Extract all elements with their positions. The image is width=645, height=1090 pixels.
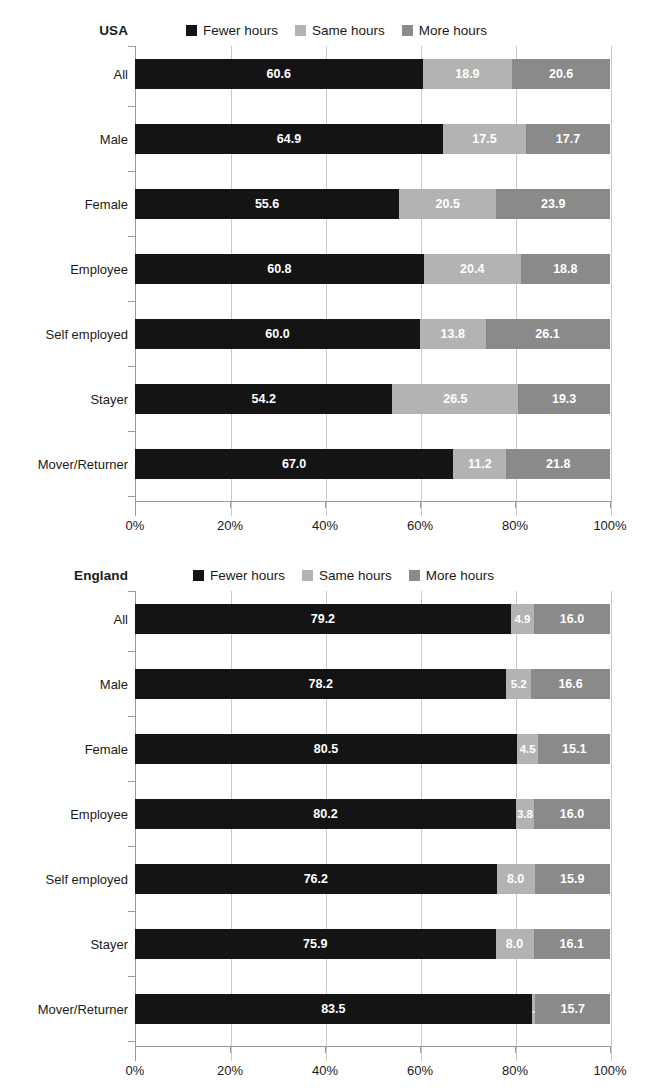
category-label-all: All <box>0 612 128 627</box>
bar-segment-more-hours: 20.6 <box>512 59 610 89</box>
bar-segment-fewer-hours: 60.8 <box>135 254 424 284</box>
stacked-bar: 80.23.816.0 <box>135 799 610 829</box>
y-axis-tick <box>128 591 136 592</box>
x-axis-label: 20% <box>217 1063 243 1078</box>
stacked-bar: 60.820.418.8 <box>135 254 610 284</box>
bar-segment-same-hours: 4.9 <box>511 604 534 634</box>
category-label-female: Female <box>0 197 128 212</box>
bar-segment-more-hours: 15.1 <box>538 734 610 764</box>
category-label-male: Male <box>0 677 128 692</box>
x-axis-tick <box>230 1046 231 1053</box>
chart-england-legend: Fewer hours Same hours More hours <box>193 568 494 583</box>
legend-swatch-icon-more-hours <box>402 25 413 36</box>
stacked-bar: 79.24.916.0 <box>135 604 610 634</box>
y-axis-tick <box>128 496 136 497</box>
stacked-bar: 54.226.519.3 <box>135 384 610 414</box>
x-axis-tick <box>230 501 231 508</box>
category-label-all: All <box>0 67 128 82</box>
y-axis-tick <box>128 301 136 302</box>
category-label-employee: Employee <box>0 262 128 277</box>
bar-segment-same-hours: 4.5 <box>517 734 538 764</box>
stacked-bar: 75.98.016.1 <box>135 929 610 959</box>
legend-swatch-icon-same-hours <box>302 570 313 581</box>
legend-label-fewer-hours: Fewer hours <box>203 23 278 38</box>
x-axis-tick <box>420 501 421 508</box>
legend-swatch-icon-more-hours <box>409 570 420 581</box>
legend-swatch-icon-same-hours <box>295 25 306 36</box>
bar-segment-fewer-hours: 55.6 <box>135 189 399 219</box>
bar-segment-same-hours: 5.2 <box>506 669 531 699</box>
stacked-bar: 76.28.015.9 <box>135 864 610 894</box>
bar-segment-fewer-hours: 79.2 <box>135 604 511 634</box>
legend-item-fewer-hours: Fewer hours <box>186 23 278 38</box>
bar-segment-same-hours: 18.9 <box>423 59 513 89</box>
bar-row: Male64.917.517.7 <box>0 123 645 155</box>
legend-label-more-hours: More hours <box>426 568 494 583</box>
y-axis-tick <box>128 911 136 912</box>
x-axis-tick <box>515 1046 516 1053</box>
bar-segment-more-hours: 23.9 <box>496 189 610 219</box>
category-label-female: Female <box>0 742 128 757</box>
legend-swatch-icon-fewer-hours <box>193 570 204 581</box>
chart-england: England Fewer hours Same hours More hour… <box>0 545 645 1090</box>
chart-usa-title: USA <box>0 23 128 38</box>
bar-segment-fewer-hours: 60.0 <box>135 319 420 349</box>
legend-item-same-hours: Same hours <box>302 568 392 583</box>
bar-segment-more-hours: 16.0 <box>534 604 610 634</box>
x-axis-tick <box>610 501 611 508</box>
stacked-bar: 60.013.826.1 <box>135 319 610 349</box>
stacked-bar: 60.618.920.6 <box>135 59 610 89</box>
category-label-stayer: Stayer <box>0 392 128 407</box>
bar-segment-same-hours: 8.0 <box>497 864 535 894</box>
legend-label-same-hours: Same hours <box>312 23 385 38</box>
x-axis-label: 20% <box>217 518 243 533</box>
bar-row: Female80.54.515.1 <box>0 733 645 765</box>
bar-row: Employee80.23.816.0 <box>0 798 645 830</box>
chart-usa-rows: All60.618.920.6Male64.917.517.7Female55.… <box>0 46 645 516</box>
chart-usa-plot: All60.618.920.6Male64.917.517.7Female55.… <box>0 46 645 516</box>
bar-row: Male78.25.216.6 <box>0 668 645 700</box>
bar-row: Stayer54.226.519.3 <box>0 383 645 415</box>
bar-segment-more-hours: 17.7 <box>526 124 610 154</box>
y-axis-tick <box>128 976 136 977</box>
x-axis-tick <box>325 501 326 508</box>
bar-segment-fewer-hours: 60.6 <box>135 59 423 89</box>
bar-segment-same-hours: 13.8 <box>420 319 486 349</box>
x-axis-tick <box>515 501 516 508</box>
category-label-employee: Employee <box>0 807 128 822</box>
bar-row: Mover/Returner83.50.815.7 <box>0 993 645 1025</box>
category-label-self-employed: Self employed <box>0 327 128 342</box>
bar-segment-same-hours: 11.2 <box>453 449 506 479</box>
x-axis-tick <box>135 1046 136 1053</box>
bar-segment-fewer-hours: 80.5 <box>135 734 517 764</box>
category-label-self-employed: Self employed <box>0 872 128 887</box>
bar-segment-same-hours: 8.0 <box>496 929 534 959</box>
bar-segment-more-hours: 19.3 <box>518 384 610 414</box>
bar-segment-more-hours: 16.0 <box>534 799 610 829</box>
category-label-mover-returner: Mover/Returner <box>0 457 128 472</box>
bar-segment-more-hours: 21.8 <box>506 449 610 479</box>
chart-england-axis-baseline <box>135 1046 610 1047</box>
x-axis-tick <box>420 1046 421 1053</box>
y-axis-tick <box>128 46 136 47</box>
legend-label-more-hours: More hours <box>419 23 487 38</box>
y-axis-tick <box>128 431 136 432</box>
y-axis-tick <box>128 106 136 107</box>
legend-label-fewer-hours: Fewer hours <box>210 568 285 583</box>
x-axis-tick <box>610 1046 611 1053</box>
x-axis-label: 80% <box>502 1063 528 1078</box>
bar-row: All60.618.920.6 <box>0 58 645 90</box>
y-axis-tick <box>128 1041 136 1042</box>
y-axis-tick <box>128 716 136 717</box>
bar-segment-fewer-hours: 83.5 <box>135 994 532 1024</box>
chart-usa-legend: Fewer hours Same hours More hours <box>186 23 487 38</box>
bar-segment-same-hours: 26.5 <box>392 384 518 414</box>
chart-england-plot: All79.24.916.0Male78.25.216.6Female80.54… <box>0 591 645 1061</box>
x-axis-label: 0% <box>126 1063 145 1078</box>
y-axis-tick <box>128 651 136 652</box>
category-label-stayer: Stayer <box>0 937 128 952</box>
bar-row: Self employed60.013.826.1 <box>0 318 645 350</box>
bar-row: Stayer75.98.016.1 <box>0 928 645 960</box>
bar-segment-fewer-hours: 67.0 <box>135 449 453 479</box>
bar-segment-fewer-hours: 76.2 <box>135 864 497 894</box>
